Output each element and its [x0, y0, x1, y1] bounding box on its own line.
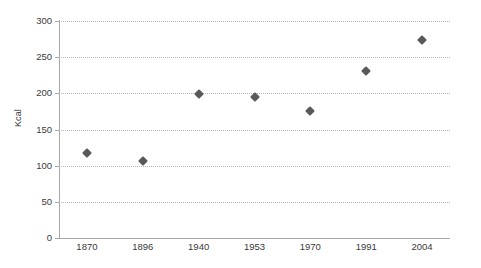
data-point[interactable]	[305, 106, 315, 116]
gridline	[59, 130, 450, 131]
x-axis-tick-label: 1940	[175, 241, 223, 253]
x-axis-tick-label: 1991	[342, 241, 390, 253]
plot-area	[59, 21, 450, 238]
y-axis-tick-label: 250	[26, 52, 52, 62]
y-axis-tick-label: 200	[26, 88, 52, 98]
data-point[interactable]	[194, 89, 204, 99]
y-axis-tick-label: 50	[26, 197, 52, 207]
y-axis-tick-mark	[55, 93, 59, 94]
y-axis-tick-mark	[55, 166, 59, 167]
y-axis-tick-label: 0	[26, 233, 52, 243]
y-axis-tick-mark	[55, 202, 59, 203]
gridline	[59, 202, 450, 203]
x-axis-tick-label: 1896	[119, 241, 167, 253]
x-axis-tick-labels: 1870189619401953197019912004	[59, 241, 450, 257]
y-axis-tick-label: 100	[26, 161, 52, 171]
scatter-chart: Kcal 050100150200250300 1870189619401953…	[0, 0, 481, 268]
y-axis-tick-mark	[55, 57, 59, 58]
y-axis-tick-label: 150	[26, 125, 52, 135]
data-point[interactable]	[417, 35, 427, 45]
x-axis-tick-label: 1970	[286, 241, 334, 253]
y-axis-tick-labels: 050100150200250300	[22, 0, 52, 268]
data-point[interactable]	[138, 156, 148, 166]
y-axis-tick-label: 300	[26, 16, 52, 26]
x-axis-tick-label: 2004	[398, 241, 446, 253]
y-axis-tick-mark	[55, 21, 59, 22]
gridline	[59, 166, 450, 167]
gridline	[59, 57, 450, 58]
gridline	[59, 21, 450, 22]
y-axis-tick-mark	[55, 238, 59, 239]
x-axis-tick-label: 1953	[231, 241, 279, 253]
data-point[interactable]	[361, 66, 371, 76]
y-axis-tick-mark	[55, 130, 59, 131]
x-axis-line	[59, 238, 450, 239]
x-axis-tick-label: 1870	[63, 241, 111, 253]
data-point[interactable]	[82, 148, 92, 158]
